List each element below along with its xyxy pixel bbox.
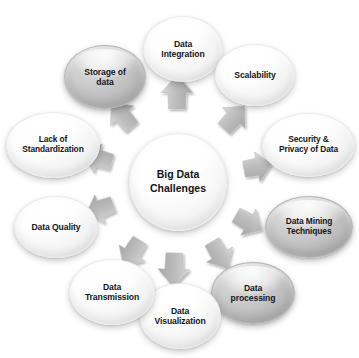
diagram-canvas: Data IntegrationScalabilitySecurity & Pr… — [0, 0, 359, 358]
node-scalability[interactable]: Scalability — [215, 44, 295, 106]
hub-big-data-challenges[interactable]: Big Data Challenges — [129, 133, 227, 231]
node-label-lack-of-standardization: Lack of Standardization — [18, 135, 87, 155]
node-label-data-mining-techniques: Data Mining Techniques — [282, 217, 336, 237]
node-label-security-privacy-of-data: Security & Privacy of Data — [275, 135, 342, 155]
node-lack-of-standardization[interactable]: Lack of Standardization — [6, 112, 100, 178]
node-data-integration[interactable]: Data Integration — [143, 16, 223, 82]
node-storage-of-data[interactable]: Storage of data — [64, 45, 146, 109]
node-data-processing[interactable]: Data processing — [211, 262, 295, 324]
node-label-scalability: Scalability — [230, 70, 279, 80]
arrow-to-data-mining-techniques — [228, 202, 269, 243]
node-label-data-visualization: Data Visualization — [150, 306, 209, 326]
node-label-data-transmission: Data Transmission — [81, 282, 143, 302]
node-label-data-integration: Data Integration — [157, 39, 208, 59]
node-data-quality[interactable]: Data Quality — [14, 196, 98, 258]
node-data-mining-techniques[interactable]: Data Mining Techniques — [265, 196, 353, 258]
arrow-to-data-visualization — [157, 252, 190, 287]
node-label-data-processing: Data processing — [227, 283, 280, 303]
node-security-privacy-of-data[interactable]: Security & Privacy of Data — [262, 113, 355, 177]
node-label-storage-of-data: Storage of data — [80, 67, 130, 87]
hub-label: Big Data Challenges — [150, 168, 206, 195]
node-label-data-quality: Data Quality — [28, 222, 85, 232]
node-data-transmission[interactable]: Data Transmission — [69, 259, 155, 325]
